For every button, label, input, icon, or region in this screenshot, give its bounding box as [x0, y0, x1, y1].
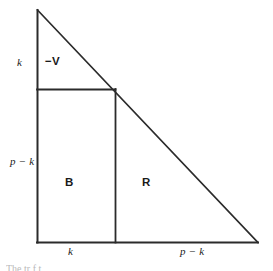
triangle-diagram-svg: [0, 0, 273, 271]
label-k-bottom: k: [68, 246, 73, 257]
label-minus-v: −V: [45, 56, 60, 68]
label-p-minus-k-bottom: p − k: [180, 246, 204, 257]
triangle-hypotenuse: [38, 10, 259, 243]
label-region-r: R: [142, 177, 151, 189]
label-k-left: k: [17, 57, 22, 68]
figure-container: k −V p − k B R k p − k The tr f t: [0, 0, 273, 271]
figure-caption-fragment: The tr f t: [6, 263, 273, 271]
label-region-b: B: [65, 177, 74, 189]
label-p-minus-k-left: p − k: [10, 156, 34, 167]
